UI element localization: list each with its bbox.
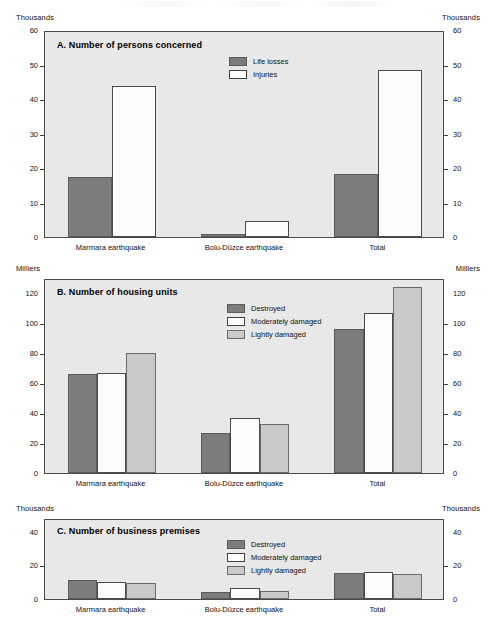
tick-mark-right [444,384,448,385]
tick-mark-right [444,354,448,355]
legend-item-moderately-damaged-b: Moderately damaged [227,316,321,327]
y-tick-left-b-0: 0 [10,469,38,478]
bar-c-bolu-d-zce-earthquake-lightly-damaged [260,591,289,599]
y-tick-right-a-20: 20 [453,164,461,173]
y-tick-left-a-30: 30 [10,130,38,139]
x-axis-label-a-1: Bolu-Düzce earthquake [177,243,310,252]
legend-item-injuries: Injuries [229,69,288,80]
y-tick-right-a-60: 60 [453,26,461,35]
tick-mark-right [444,204,448,205]
x-axis-label-c-1: Bolu-Düzce earthquake [177,605,310,614]
bar-b-marmara-earthquake-lightly-damaged [126,353,155,473]
tick-mark-left [40,100,44,101]
bar-a-bolu-d-zce-earthquake-life-losses [201,234,245,237]
y-tick-left-a-40: 40 [10,95,38,104]
unit-label-left-a: Thousands [16,13,54,22]
legend-label-destroyed-c: Destroyed [251,540,285,549]
y-tick-left-a-20: 20 [10,164,38,173]
bar-b-bolu-d-zce-earthquake-moderately-damaged [230,418,259,474]
y-tick-right-b-120: 120 [453,289,466,298]
bar-b-marmara-earthquake-moderately-damaged [97,373,126,474]
tick-mark-left [40,66,44,67]
bar-c-marmara-earthquake-moderately-damaged [97,582,126,599]
legend-label-lightly-damaged-c: Lightly damaged [251,566,306,575]
y-tick-left-b-20: 20 [10,439,38,448]
bar-c-total-destroyed [334,573,363,599]
x-axis-label-c-2: Total [311,605,444,614]
y-tick-left-b-100: 100 [10,319,38,328]
bar-a-marmara-earthquake-injuries [112,86,156,237]
y-tick-right-b-20: 20 [453,439,461,448]
unit-label-right-c: Thousands [442,504,480,513]
legend-swatch-destroyed-c [227,540,245,549]
legend-label-destroyed-b: Destroyed [251,304,285,313]
x-axis-label-b-2: Total [311,479,444,488]
panel-title-c: C. Number of business premises [57,526,200,536]
bar-c-marmara-earthquake-destroyed [68,580,97,599]
legend-item-life-losses: Life losses [229,56,288,67]
tick-mark-left [40,135,44,136]
legend-c: Destroyed Moderately damaged Lightly dam… [227,539,321,578]
bar-c-bolu-d-zce-earthquake-destroyed [201,592,230,599]
panel-title-b: B. Number of housing units [57,287,178,297]
chart-panel-a: Thousands Thousands A. Number of persons… [0,0,490,255]
y-tick-left-c-0: 0 [10,595,38,604]
tick-mark-left [40,566,44,567]
panel-title-a: A. Number of persons concerned [57,40,202,50]
legend-item-destroyed-c: Destroyed [227,539,321,550]
legend-swatch-destroyed-b [227,304,245,313]
legend-swatch-moderately-damaged-b [227,317,245,326]
bar-a-total-life-losses [334,174,378,237]
tick-mark-left [40,384,44,385]
bar-b-marmara-earthquake-destroyed [68,374,97,473]
plot-area-c: C. Number of business premises Destroyed… [44,519,444,600]
chart-panel-c: Thousands Thousands C. Number of busines… [0,495,490,627]
tick-mark-left [40,354,44,355]
bar-a-bolu-d-zce-earthquake-injuries [245,221,289,237]
y-tick-left-b-120: 120 [10,289,38,298]
y-tick-left-a-0: 0 [10,233,38,242]
bar-b-total-moderately-damaged [364,313,393,474]
y-tick-right-a-10: 10 [453,199,461,208]
y-tick-right-a-50: 50 [453,61,461,70]
y-tick-right-b-60: 60 [453,379,461,388]
legend-label-moderately-damaged-b: Moderately damaged [251,317,321,326]
y-tick-right-b-40: 40 [453,409,461,418]
bar-b-bolu-d-zce-earthquake-lightly-damaged [260,424,289,474]
bar-b-bolu-d-zce-earthquake-destroyed [201,433,230,474]
legend-label-injuries: Injuries [253,70,277,79]
legend-item-destroyed-b: Destroyed [227,303,321,314]
y-tick-right-a-0: 0 [453,233,457,242]
bar-c-total-lightly-damaged [393,574,422,599]
y-tick-left-c-20: 20 [10,561,38,570]
y-tick-left-b-40: 40 [10,409,38,418]
tick-mark-right [444,414,448,415]
legend-label-lightly-damaged-b: Lightly damaged [251,330,306,339]
legend-label-moderately-damaged-c: Moderately damaged [251,553,321,562]
plot-area-b: B. Number of housing units Destroyed Mod… [44,279,444,474]
bar-c-total-moderately-damaged [364,572,393,599]
tick-mark-left [40,204,44,205]
tick-mark-left [40,444,44,445]
x-axis-label-a-0: Marmara earthquake [44,243,177,252]
x-axis-label-b-0: Marmara earthquake [44,479,177,488]
y-tick-right-b-100: 100 [453,319,466,328]
tick-mark-right [444,100,448,101]
bar-c-bolu-d-zce-earthquake-moderately-damaged [230,588,259,599]
y-tick-left-b-80: 80 [10,349,38,358]
legend-item-lightly-damaged-c: Lightly damaged [227,565,321,576]
plot-area-a: A. Number of persons concerned Life loss… [44,31,444,238]
legend-swatch-injuries [229,70,247,79]
unit-label-left-b: Milliers [16,264,40,273]
legend-label-life-losses: Life losses [253,57,288,66]
unit-label-right-b: Milliers [456,264,480,273]
tick-mark-left [40,324,44,325]
x-axis-label-b-1: Bolu-Düzce earthquake [177,479,310,488]
legend-swatch-moderately-damaged-c [227,553,245,562]
legend-b: Destroyed Moderately damaged Lightly dam… [227,303,321,342]
tick-mark-right [444,169,448,170]
y-tick-left-c-40: 40 [10,528,38,537]
y-tick-right-c-20: 20 [453,561,461,570]
bar-c-marmara-earthquake-lightly-damaged [126,583,155,599]
bar-b-total-lightly-damaged [393,287,422,473]
